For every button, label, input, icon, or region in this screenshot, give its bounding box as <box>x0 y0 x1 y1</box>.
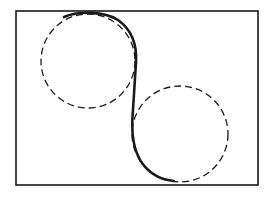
s-curve-solid-path <box>64 13 174 181</box>
upper-left-dashed-circle <box>41 14 135 108</box>
diagram-canvas <box>0 0 272 197</box>
